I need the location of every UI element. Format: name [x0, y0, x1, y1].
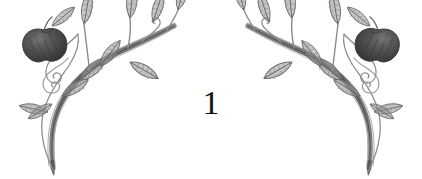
leaf: [344, 4, 374, 29]
page-canvas: 1: [0, 0, 422, 179]
leaf: [124, 0, 141, 19]
leaf: [282, 0, 299, 19]
leaf: [49, 4, 79, 29]
leaf: [253, 0, 274, 24]
leaf: [172, 0, 192, 11]
leaf: [230, 0, 250, 11]
leaf: [325, 0, 344, 25]
leaf: [78, 0, 97, 25]
leaf: [262, 57, 295, 84]
leaf: [127, 57, 160, 84]
page-number: 1: [0, 86, 422, 120]
leaf: [147, 0, 168, 24]
